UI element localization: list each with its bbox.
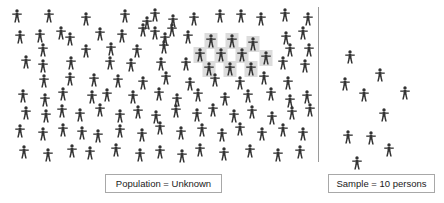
person-icon: [235, 76, 246, 90]
person-icon: [280, 8, 291, 22]
person-icon: [197, 123, 208, 137]
person-icon: [400, 86, 411, 100]
person-icon: [106, 42, 117, 56]
person-icon: [21, 106, 32, 120]
person-icon: [38, 43, 49, 57]
person-icon: [285, 43, 296, 57]
person-icon: [95, 103, 106, 117]
person-icon: [217, 128, 228, 142]
person-icon: [18, 89, 29, 103]
person-icon: [210, 73, 221, 87]
person-icon: [229, 109, 240, 123]
person-icon: [85, 146, 96, 160]
person-icon: [343, 130, 354, 144]
person-icon: [267, 111, 278, 125]
person-icon-sampled: [245, 61, 258, 77]
person-icon: [81, 44, 92, 58]
person-icon: [159, 40, 170, 54]
person-icon: [66, 56, 77, 70]
population-sample-figure: Population = Unknown Sample = 10 persons: [0, 0, 444, 203]
person-icon: [41, 109, 52, 123]
person-icon: [305, 103, 316, 117]
person-icon: [340, 77, 351, 91]
person-icon: [58, 87, 69, 101]
person-icon: [102, 88, 113, 102]
person-icon: [111, 143, 122, 157]
person-icon: [38, 127, 49, 141]
person-icon: [295, 145, 306, 159]
person-icon: [287, 106, 298, 120]
person-icon: [345, 50, 356, 64]
person-icon: [154, 87, 165, 101]
person-icon: [161, 71, 172, 85]
person-icon: [366, 131, 377, 145]
person-icon: [304, 43, 315, 57]
person-icon: [128, 90, 139, 104]
person-icon: [44, 9, 55, 23]
person-icon: [266, 87, 277, 101]
person-icon: [235, 122, 246, 136]
sample-caption-box: Sample = 10 persons: [328, 174, 435, 193]
person-icon: [15, 30, 26, 44]
person-icon: [245, 144, 256, 158]
person-icon: [133, 105, 144, 119]
person-icon: [193, 88, 204, 102]
person-icon: [137, 128, 148, 142]
person-icon: [247, 105, 258, 119]
person-icon: [236, 9, 247, 23]
person-icon: [298, 127, 309, 141]
person-icon: [256, 12, 267, 26]
person-icon: [40, 93, 51, 107]
person-icon: [65, 32, 76, 46]
person-icon: [177, 149, 188, 163]
person-icon: [132, 44, 143, 58]
person-icon: [77, 126, 88, 140]
person-icon: [120, 9, 131, 23]
person-icon: [15, 124, 26, 138]
person-icon: [273, 148, 284, 162]
person-icon: [302, 90, 313, 104]
person-icon: [58, 123, 69, 137]
person-icon: [39, 74, 50, 88]
person-icon: [300, 59, 311, 73]
person-icon: [21, 55, 32, 69]
person-icon-sampled: [260, 50, 273, 66]
person-icon: [215, 9, 226, 23]
person-icon: [12, 9, 23, 23]
person-icon: [117, 29, 128, 43]
person-icon: [75, 108, 86, 122]
person-icon: [183, 30, 194, 44]
person-icon: [65, 72, 76, 86]
person-icon: [195, 143, 206, 157]
person-icon: [359, 88, 370, 102]
person-icon: [189, 12, 200, 26]
person-icon: [43, 148, 54, 162]
person-icon: [220, 92, 231, 106]
person-icon: [87, 90, 98, 104]
population-caption-box: Population = Unknown: [105, 174, 222, 193]
person-icon: [278, 123, 289, 137]
person-icon: [126, 58, 137, 72]
person-icon: [93, 129, 104, 143]
person-icon: [57, 104, 68, 118]
person-icon: [38, 59, 49, 73]
person-icon: [81, 12, 92, 26]
person-icon: [155, 121, 166, 135]
person-icon: [138, 23, 149, 37]
person-icon: [243, 89, 254, 103]
person-icon: [283, 76, 294, 90]
person-icon: [303, 12, 314, 26]
person-icon: [156, 57, 167, 71]
person-icon: [181, 57, 192, 71]
person-icon: [95, 27, 106, 41]
person-icon: [67, 144, 78, 158]
person-icon: [352, 156, 363, 170]
person-icon: [155, 145, 166, 159]
person-icon: [176, 126, 187, 140]
person-icon: [257, 127, 268, 141]
person-icon: [219, 147, 230, 161]
person-icon: [115, 124, 126, 138]
person-icon: [192, 108, 203, 122]
person-icon: [171, 104, 182, 118]
person-icon: [298, 26, 309, 40]
